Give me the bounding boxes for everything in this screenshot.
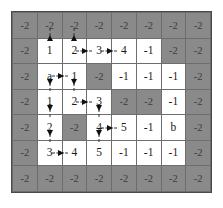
cell-value: -2 [120, 174, 129, 185]
grid-cell-wall-r0-c1[interactable]: -2 [37, 13, 62, 39]
grid-cell-wall-r6-c5[interactable]: -2 [136, 166, 161, 192]
grid-cell-wall-r0-c5[interactable]: -2 [136, 13, 161, 39]
grid-cell-wall-r2-c7[interactable]: -2 [186, 64, 211, 90]
grid-cell-wall-r6-c7[interactable]: -2 [186, 166, 211, 192]
grid-cell-open-r5-c6[interactable]: -1 [161, 140, 186, 166]
grid-cell-wall-r4-c2[interactable]: -2 [62, 115, 87, 141]
cell-value: -2 [45, 174, 54, 185]
cell-value: -1 [169, 71, 179, 83]
cell-value: -2 [70, 21, 79, 32]
grid-cell-open-r1-c5[interactable]: -1 [136, 38, 161, 64]
cell-value: -1 [169, 96, 179, 108]
cell-value: 1 [47, 45, 53, 57]
grid-cell-open-r3-c2[interactable]: 2 [62, 89, 87, 115]
cell-value: -1 [144, 45, 154, 57]
grid-cell-wall-r3-c5[interactable]: -2 [136, 89, 161, 115]
cell-value: 3 [96, 96, 102, 108]
grid-cell-wall-r5-c7[interactable]: -2 [186, 140, 211, 166]
grid-cell-open-r5-c3[interactable]: 5 [87, 140, 112, 166]
grid-cell-wall-r6-c1[interactable]: -2 [37, 166, 62, 192]
cell-value: -2 [95, 21, 104, 32]
grid-cell-open-r4-c5[interactable]: -1 [136, 115, 161, 141]
cell-value: -2 [194, 72, 203, 83]
cell-value: 4 [72, 147, 78, 159]
cell-value: -2 [194, 97, 203, 108]
grid-cell-wall-r0-c6[interactable]: -2 [161, 13, 186, 39]
grid-row: -2a1-2-1-1-1-2 [13, 64, 211, 90]
grid-row: -2123-2-2-1-2 [13, 89, 211, 115]
cell-value: -2 [194, 148, 203, 159]
grid-cell-wall-r2-c3[interactable]: -2 [87, 64, 112, 90]
cell-value: -2 [194, 123, 203, 134]
cell-value: 3 [96, 45, 102, 57]
grid-cell-open-r2-c2[interactable]: 1 [62, 64, 87, 90]
grid-cell-open-r4-c3[interactable]: 4 [87, 115, 112, 141]
grid-cell-open-r5-c5[interactable]: -1 [136, 140, 161, 166]
grid-cell-open-r5-c4[interactable]: -1 [112, 140, 137, 166]
grid-cell-wall-r1-c6[interactable]: -2 [161, 38, 186, 64]
cell-value: 1 [47, 96, 53, 108]
grid-cell-wall-r6-c4[interactable]: -2 [112, 166, 137, 192]
grid-cell-wall-r3-c4[interactable]: -2 [112, 89, 137, 115]
grid-cell-open-r4-c1[interactable]: 2 [37, 115, 62, 141]
grid-cell-open-r3-c1[interactable]: 1 [37, 89, 62, 115]
cell-value: -2 [169, 46, 178, 57]
grid-row: -22-245-1b-2 [13, 115, 211, 141]
grid-cell-wall-r6-c0[interactable]: -2 [13, 166, 38, 192]
cell-value: -2 [194, 46, 203, 57]
cell-value: -2 [21, 174, 30, 185]
grid-cell-open-r3-c3[interactable]: 3 [87, 89, 112, 115]
cell-value: 2 [72, 96, 78, 108]
cell-value: -1 [144, 71, 154, 83]
cell-value: 5 [96, 147, 102, 159]
cell-value: 2 [47, 122, 53, 134]
grid-cell-open-r1-c1[interactable]: 1 [37, 38, 62, 64]
grid-cell-open-r2-c1[interactable]: a [37, 64, 62, 90]
grid-cell-wall-r6-c2[interactable]: -2 [62, 166, 87, 192]
cell-value: -2 [169, 174, 178, 185]
cell-value: 4 [96, 122, 102, 134]
grid-row: -21234-1-2-2 [13, 38, 211, 64]
grid-cell-open-r5-c2[interactable]: 4 [62, 140, 87, 166]
cell-value: -2 [144, 21, 153, 32]
cell-value: -2 [144, 174, 153, 185]
grid-cell-open-r2-c5[interactable]: -1 [136, 64, 161, 90]
grid-cell-open-r1-c3[interactable]: 3 [87, 38, 112, 64]
grid-cell-open-r2-c6[interactable]: -1 [161, 64, 186, 90]
grid-cell-open-r5-c1[interactable]: 3 [37, 140, 62, 166]
cell-value: -1 [169, 147, 179, 159]
grid-cell-wall-r3-c0[interactable]: -2 [13, 89, 38, 115]
grid-cell-wall-r1-c0[interactable]: -2 [13, 38, 38, 64]
cell-value: -2 [21, 123, 30, 134]
cell-value: -2 [45, 21, 54, 32]
grid-cell-wall-r1-c7[interactable]: -2 [186, 38, 211, 64]
cell-value: -2 [144, 97, 153, 108]
cell-value: -2 [70, 123, 79, 134]
cell-value: -1 [144, 147, 154, 159]
grid-cell-wall-r5-c0[interactable]: -2 [13, 140, 38, 166]
grid-cell-wall-r0-c7[interactable]: -2 [186, 13, 211, 39]
grid-cell-open-r2-c4[interactable]: -1 [112, 64, 137, 90]
cell-value: a [47, 71, 52, 83]
cell-value: b [171, 122, 177, 134]
grid-row: -2345-1-1-1-2 [13, 140, 211, 166]
grid-cell-open-r1-c2[interactable]: 2 [62, 38, 87, 64]
grid-cell-open-r4-c6[interactable]: b [161, 115, 186, 141]
grid-cell-open-r3-c6[interactable]: -1 [161, 89, 186, 115]
grid-cell-wall-r6-c3[interactable]: -2 [87, 166, 112, 192]
cell-value: -1 [144, 122, 154, 134]
cell-value: 5 [121, 122, 127, 134]
grid-cell-wall-r0-c3[interactable]: -2 [87, 13, 112, 39]
grid-cell-wall-r6-c6[interactable]: -2 [161, 166, 186, 192]
grid-cell-wall-r0-c2[interactable]: -2 [62, 13, 87, 39]
grid-cell-wall-r0-c0[interactable]: -2 [13, 13, 38, 39]
cell-value: -1 [119, 147, 129, 159]
grid-cell-wall-r4-c7[interactable]: -2 [186, 115, 211, 141]
grid-cell-wall-r2-c0[interactable]: -2 [13, 64, 38, 90]
grid-cell-open-r1-c4[interactable]: 4 [112, 38, 137, 64]
grid-cell-wall-r4-c0[interactable]: -2 [13, 115, 38, 141]
grid-cell-wall-r3-c7[interactable]: -2 [186, 89, 211, 115]
cell-value: -2 [194, 21, 203, 32]
grid-cell-wall-r0-c4[interactable]: -2 [112, 13, 137, 39]
grid-cell-open-r4-c4[interactable]: 5 [112, 115, 137, 141]
